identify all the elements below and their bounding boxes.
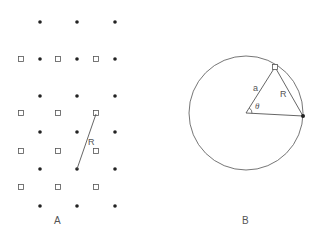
lattice-dot-icon	[38, 20, 42, 24]
lattice-square-icon	[19, 57, 24, 62]
lattice-square-icon	[19, 149, 24, 154]
lattice-dot-icon	[113, 167, 117, 171]
lattice-dot-icon	[113, 130, 117, 134]
square-point-icon	[273, 65, 278, 70]
lattice-square-icon	[56, 185, 61, 190]
lattice-dot-icon	[113, 57, 117, 61]
lattice-dot-icon	[38, 167, 42, 171]
lattice-square-icon	[56, 111, 61, 116]
lattice-dot-icon	[38, 57, 42, 61]
radius-horizontal-line	[246, 113, 303, 116]
lattice-dot-icon	[75, 20, 79, 24]
panel-a-lattice: R A	[19, 20, 117, 226]
lattice-dot-icon	[75, 204, 79, 208]
panel-a-label: A	[54, 215, 61, 226]
lattice-dots	[38, 20, 117, 208]
lattice-square-icon	[56, 149, 61, 154]
lattice-square-icon	[56, 57, 61, 62]
lattice-square-icon	[94, 149, 99, 154]
panel-b-circle: a R θ B	[189, 56, 305, 226]
lattice-dot-icon	[75, 57, 79, 61]
lattice-square-icon	[94, 185, 99, 190]
panel-b-label: B	[242, 215, 249, 226]
lattice-squares	[19, 57, 99, 190]
lattice-square-icon	[94, 57, 99, 62]
angle-arc-icon	[249, 108, 252, 113]
lattice-dot-icon	[113, 20, 117, 24]
radius-a-line	[246, 67, 275, 113]
lattice-dot-icon	[75, 130, 79, 134]
lattice-square-icon	[19, 111, 24, 116]
label-a: a	[253, 83, 258, 93]
lattice-dot-icon	[38, 94, 42, 98]
label-r: R	[280, 89, 287, 99]
figure: R A a R θ B	[0, 0, 317, 239]
lattice-dot-icon	[38, 130, 42, 134]
lattice-dot-icon	[113, 204, 117, 208]
lattice-dot-icon	[113, 94, 117, 98]
vector-r-label: R	[88, 137, 95, 147]
lattice-square-icon	[19, 185, 24, 190]
lattice-dot-icon	[38, 204, 42, 208]
lattice-dot-icon	[75, 94, 79, 98]
dot-point-icon	[301, 114, 305, 118]
label-theta: θ	[255, 101, 260, 111]
